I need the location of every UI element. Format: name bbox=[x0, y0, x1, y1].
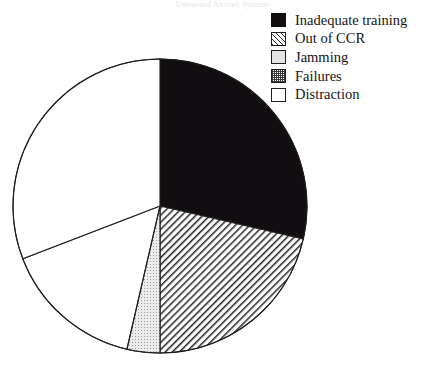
legend-label-out-of-ccr: Out of CCR bbox=[295, 31, 365, 46]
legend-item-out-of-ccr[interactable]: Out of CCR bbox=[271, 30, 445, 49]
legend-swatch-failures bbox=[271, 69, 286, 83]
pie-slices-group bbox=[13, 59, 307, 353]
legend-item-inadequate-training[interactable]: Inadequate training bbox=[271, 11, 445, 30]
pie-slice-distraction[interactable] bbox=[13, 59, 160, 259]
legend-item-distraction[interactable]: Distraction bbox=[271, 85, 445, 104]
chart-legend: Inadequate training Out of CCR Jamming F… bbox=[271, 11, 445, 104]
legend-swatch-jamming bbox=[271, 50, 286, 64]
legend-item-failures[interactable]: Failures bbox=[271, 67, 445, 86]
legend-label-distraction: Distraction bbox=[295, 87, 359, 102]
legend-swatch-out-of-ccr bbox=[271, 32, 286, 46]
legend-item-jamming[interactable]: Jamming bbox=[271, 48, 445, 67]
page-root: Unmanned Aircraft Systems bbox=[0, 0, 445, 367]
pie-chart-figure: Inadequate training Out of CCR Jamming F… bbox=[0, 0, 445, 367]
legend-label-failures: Failures bbox=[295, 69, 342, 84]
legend-swatch-inadequate-training bbox=[271, 13, 286, 27]
legend-label-inadequate-training: Inadequate training bbox=[295, 13, 407, 28]
legend-label-jamming: Jamming bbox=[295, 50, 348, 65]
legend-swatch-distraction bbox=[271, 88, 286, 102]
